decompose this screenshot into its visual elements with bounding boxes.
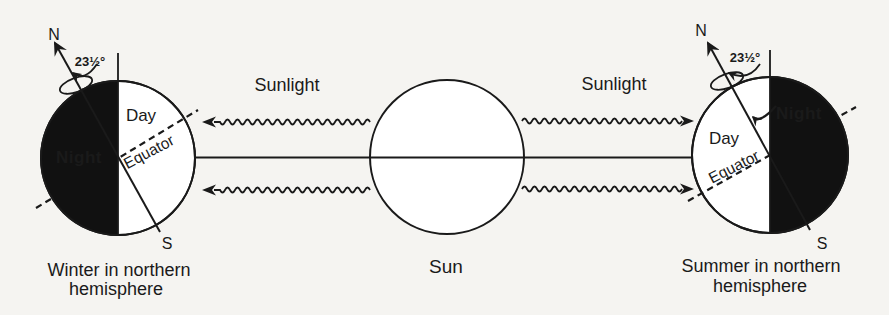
sunlight-label-left: Sunlight xyxy=(254,75,319,95)
sunlight-wave-lower-left xyxy=(214,188,370,193)
earth-summer-tilt-arc xyxy=(729,64,760,76)
earth-summer-south-label: S xyxy=(817,235,828,252)
seasons-diagram-canvas: Sunlight Sunlight Sun N 23½° Day Night E… xyxy=(0,0,889,315)
sunlight-wave-upper-left xyxy=(214,120,370,125)
earth-winter-south-label: S xyxy=(162,235,173,252)
sunlight-wave-upper-right xyxy=(522,119,682,124)
earth-summer-caption-line2: hemisphere xyxy=(713,276,807,296)
seasons-diagram: Sunlight Sunlight Sun N 23½° Day Night E… xyxy=(0,0,889,315)
earth-summer-north-label: N xyxy=(695,22,707,39)
earth-winter-night-label: Night xyxy=(56,148,102,167)
earth-winter-north-label: N xyxy=(48,26,60,43)
sun-group: Sunlight Sunlight Sun xyxy=(196,74,694,277)
wave-arrowhead-lower-left xyxy=(202,185,216,196)
earth-winter-day-label: Day xyxy=(126,106,157,125)
wave-arrowhead-upper-right xyxy=(680,116,694,127)
earth-winter-tilt-angle-label: 23½° xyxy=(75,54,106,69)
earth-winter-caption-line2: hemisphere xyxy=(69,279,163,299)
earth-summer-night-label: Night xyxy=(776,104,822,123)
wave-arrowhead-lower-right xyxy=(680,184,694,195)
sunlight-wave-lower-right xyxy=(522,187,682,192)
earth-summer-night-half xyxy=(770,77,848,233)
wave-arrowhead-upper-left xyxy=(202,117,216,128)
earth-winter-group: N 23½° Day Night Equator S Winter in nor… xyxy=(36,26,198,299)
sun-label: Sun xyxy=(429,256,463,277)
earth-summer-day-label: Day xyxy=(709,129,740,148)
earth-summer-group: N 23½° Day Night Equator S Summer in nor… xyxy=(681,22,856,296)
sunlight-label-right: Sunlight xyxy=(581,74,646,94)
earth-winter-caption-line1: Winter in northern xyxy=(47,260,190,280)
earth-summer-tilt-angle-label: 23½° xyxy=(730,50,761,65)
earth-summer-caption-line1: Summer in northern xyxy=(681,256,840,276)
